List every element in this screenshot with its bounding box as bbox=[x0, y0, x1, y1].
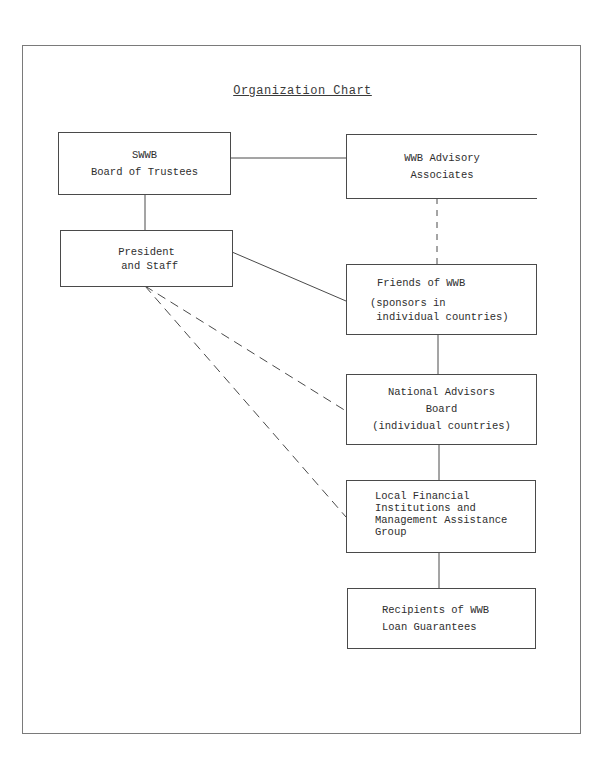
node-label: and Staff bbox=[115, 259, 178, 273]
node-label: Friends of WWB bbox=[370, 275, 465, 292]
node-label: (sponsors in bbox=[370, 296, 446, 310]
node-friends-of-wwb: Friends of WWB (sponsors in individual c… bbox=[346, 264, 537, 335]
node-label: Loan Guarantees bbox=[382, 619, 477, 636]
node-president-and-staff: President and Staff bbox=[60, 230, 233, 287]
node-label: Board bbox=[426, 401, 458, 418]
node-label: (individual countries) bbox=[372, 418, 511, 435]
node-local-financial-institutions: Local Financial Institutions and Managem… bbox=[346, 480, 536, 553]
node-recipients-loan-guarantees: Recipients of WWB Loan Guarantees bbox=[347, 588, 536, 649]
node-label: WWB Advisory bbox=[404, 150, 480, 167]
node-label: National Advisors bbox=[388, 384, 495, 401]
node-national-advisors-board: National Advisors Board (individual coun… bbox=[346, 374, 537, 445]
node-label: SWWB bbox=[132, 147, 157, 164]
node-label: Local Financial bbox=[375, 490, 470, 502]
node-label: Group bbox=[375, 526, 407, 538]
node-label: Management Assistance bbox=[375, 514, 507, 526]
connector-president-local bbox=[145, 286, 346, 517]
node-advisory-associates: WWB Advisory Associates bbox=[346, 134, 537, 199]
node-label: Board of Trustees bbox=[91, 164, 198, 181]
connector-president-national bbox=[145, 286, 346, 411]
node-label: individual countries) bbox=[370, 310, 509, 324]
node-label: Associates bbox=[410, 167, 473, 184]
node-label: President bbox=[118, 245, 175, 259]
node-label: Recipients of WWB bbox=[382, 602, 489, 619]
node-label: Institutions and bbox=[375, 502, 476, 514]
node-board-of-trustees: SWWB Board of Trustees bbox=[58, 132, 231, 195]
connector-president-friends bbox=[232, 252, 346, 301]
